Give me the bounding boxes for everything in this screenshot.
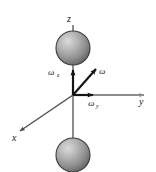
upper-mass-sphere	[56, 31, 90, 65]
omega-vector	[73, 69, 96, 95]
lower-mass-sphere	[56, 138, 90, 172]
z-axis-label: z	[66, 13, 71, 24]
omega-z-label: ω	[48, 67, 54, 77]
omega-label: ω	[99, 66, 105, 76]
figure-canvas: z y x ω z ω ω y	[0, 0, 156, 172]
omega-z-subscript: z	[56, 72, 60, 78]
x-axis-line	[20, 95, 73, 131]
physics-figure: z y x ω z ω ω y	[0, 0, 156, 172]
omega-y-label: ω	[88, 98, 94, 108]
y-axis-label: y	[138, 96, 144, 107]
omega-y-subscript: y	[95, 103, 99, 109]
x-axis-label: x	[11, 132, 17, 143]
